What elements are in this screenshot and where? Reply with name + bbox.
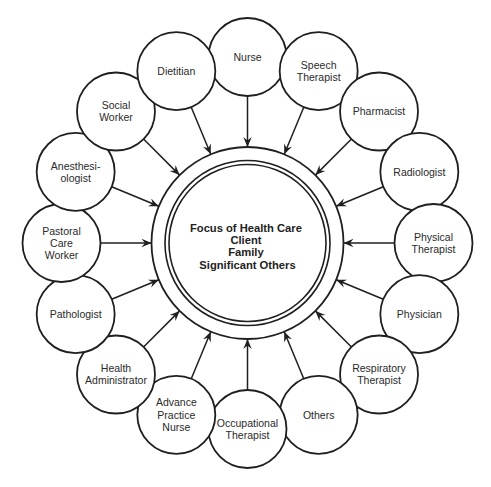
node-label-line: Advance <box>156 396 197 408</box>
node-label-line: Nurse <box>233 51 261 63</box>
node-label-line: Pharmacist <box>353 105 406 117</box>
node-label: RespiratoryTherapist <box>352 362 406 386</box>
node-label: SocialWorker <box>99 99 133 123</box>
arrow-anesthesiologist-to-center <box>112 187 159 207</box>
center-line-family: Family <box>228 246 264 258</box>
node-label-line: Anesthesi- <box>51 160 101 172</box>
center-line-significant-others: Significant Others <box>199 259 295 271</box>
health-care-team-diagram: Focus of Health Care Client Family Signi… <box>0 0 491 487</box>
node-label-line: Practice <box>157 409 195 421</box>
node-label-line: Therapist <box>297 71 341 83</box>
arrow-social-worker-to-center <box>144 139 180 175</box>
arrow-radiologist-to-center <box>336 187 383 207</box>
node-label-line: ologist <box>60 172 90 184</box>
node-label-line: Health <box>101 362 132 374</box>
node-others: Others <box>280 376 358 454</box>
arrow-pharmacist-to-center <box>315 139 351 175</box>
node-label-line: Administrator <box>85 374 147 386</box>
node-occupational-therapist: OccupationalTherapist <box>209 390 287 468</box>
node-pastoral-care-worker: PastoralCareWorker <box>23 204 101 282</box>
node-label-line: Therapist <box>226 429 270 441</box>
node-label: Pharmacist <box>353 105 406 117</box>
node-nurse: Nurse <box>209 18 287 96</box>
node-label: OccupationalTherapist <box>217 417 278 441</box>
node-label-line: Physical <box>414 231 453 243</box>
node-label-line: Social <box>102 99 131 111</box>
node-label: Radiologist <box>393 166 445 178</box>
node-label: Others <box>303 409 335 421</box>
node-label-line: Physician <box>397 308 442 320</box>
center-focus-circle: Focus of Health Care Client Family Signi… <box>152 147 344 339</box>
arrow-respiratory-therapist-to-center <box>315 311 351 347</box>
center-line-client: Client <box>230 234 261 246</box>
node-label-line: Care <box>50 237 73 249</box>
node-label-line: Others <box>303 409 335 421</box>
node-label-line: Pathologist <box>50 308 102 320</box>
arrow-speech-therapist-to-center <box>284 107 304 154</box>
node-label: Pathologist <box>50 308 102 320</box>
node-label-line: Speech <box>301 59 337 71</box>
node-label: Nurse <box>233 51 261 63</box>
node-pathologist: Pathologist <box>37 275 115 353</box>
node-label-line: Radiologist <box>393 166 445 178</box>
node-label-line: Dietitian <box>157 65 195 77</box>
arrow-health-administrator-to-center <box>144 311 180 347</box>
node-label-line: Occupational <box>217 417 278 429</box>
node-label-line: Worker <box>99 111 133 123</box>
node-label-line: Worker <box>45 249 79 261</box>
node-label-line: Respiratory <box>352 362 406 374</box>
node-dietitian: Dietitian <box>137 32 215 110</box>
arrow-others-to-center <box>284 332 304 379</box>
node-label-line: Therapist <box>412 243 456 255</box>
node-label: PhysicalTherapist <box>412 231 456 255</box>
arrow-pathologist-to-center <box>112 280 159 300</box>
arrow-physician-to-center <box>336 280 383 300</box>
node-radiologist: Radiologist <box>380 133 458 211</box>
center-label: Focus of Health Care Client Family Signi… <box>190 222 305 271</box>
node-label: SpeechTherapist <box>297 59 341 83</box>
node-label-line: Pastoral <box>42 225 81 237</box>
center-line-focus: Focus of Health Care <box>190 222 302 234</box>
arrow-dietitian-to-center <box>191 107 211 154</box>
node-label-line: Therapist <box>357 374 401 386</box>
arrow-advance-practice-nurse-to-center <box>191 332 211 379</box>
node-label: Physician <box>397 308 442 320</box>
node-physical-therapist: PhysicalTherapist <box>395 204 473 282</box>
node-label-line: Nurse <box>162 421 190 433</box>
node-label: Dietitian <box>157 65 195 77</box>
